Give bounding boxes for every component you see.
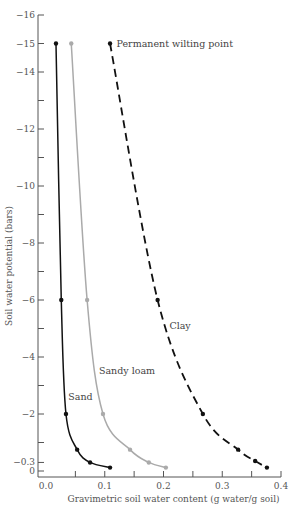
y-tick-label: −14 — [16, 67, 35, 77]
y-tick-label: −6 — [22, 295, 36, 305]
y-tick-label: −4 — [22, 352, 36, 362]
data-point-sand — [59, 298, 63, 302]
x-axis-title: Gravimetric soil water content (g water/… — [67, 494, 279, 504]
data-point-sand — [64, 412, 68, 416]
x-tick-label: 0.3 — [215, 481, 230, 491]
data-point-clay — [265, 465, 269, 469]
axes: 0−0.3−2−4−6−8−10−12−14−15−16 0.00.10.20.… — [13, 10, 288, 491]
series-layer — [54, 41, 269, 469]
series-label-sandy-loam: Sandy loam — [99, 365, 155, 376]
data-point-sandy-loam — [128, 447, 132, 451]
x-tick-label: 0.2 — [156, 481, 170, 491]
y-ticks: 0−0.3−2−4−6−8−10−12−14−15−16 — [13, 10, 44, 476]
data-point-clay — [253, 459, 257, 463]
data-point-sandy-loam — [69, 41, 73, 45]
data-point-sandy-loam — [164, 465, 168, 469]
y-tick-label: −12 — [16, 124, 35, 134]
soil-water-chart: 0−0.3−2−4−6−8−10−12−14−15−16 0.00.10.20.… — [0, 0, 296, 515]
annotation-permanent-wilting-point: Permanent wilting point — [117, 38, 234, 49]
data-point-clay — [155, 298, 159, 302]
x-tick-label: 0.4 — [274, 481, 289, 491]
data-point-sandy-loam — [101, 412, 105, 416]
x-ticks: 0.00.10.20.30.4 — [39, 471, 289, 491]
data-point-sand — [54, 41, 58, 45]
y-axis-title: Soil water potential (bars) — [4, 206, 14, 326]
data-point-sand — [108, 465, 112, 469]
y-tick-label: −0.3 — [13, 457, 35, 467]
series-line-clay — [110, 44, 267, 468]
data-point-sandy-loam — [147, 460, 151, 464]
x-tick-label: 0.1 — [98, 481, 112, 491]
series-line-sand — [56, 44, 110, 468]
series-line-sandy-loam — [71, 44, 166, 468]
data-point-clay — [108, 41, 112, 45]
data-point-clay — [201, 412, 205, 416]
y-tick-label: −8 — [22, 238, 36, 248]
y-tick-label: −16 — [16, 10, 35, 20]
series-label-clay: Clay — [169, 320, 191, 331]
y-tick-label: −2 — [22, 409, 35, 419]
x-tick-label: 0.0 — [39, 481, 54, 491]
y-tick-label: −10 — [16, 181, 35, 191]
labels-layer: SandSandy loamClayPermanent wilting poin… — [68, 38, 233, 402]
y-tick-label: 0 — [29, 466, 35, 476]
data-point-sand — [75, 447, 79, 451]
data-point-sandy-loam — [85, 298, 89, 302]
data-point-sand — [88, 460, 92, 464]
y-tick-label: −15 — [16, 39, 35, 49]
data-point-clay — [236, 447, 240, 451]
series-label-sand: Sand — [68, 391, 92, 402]
